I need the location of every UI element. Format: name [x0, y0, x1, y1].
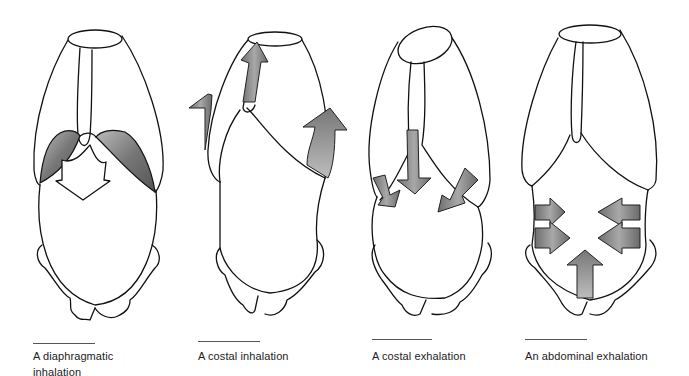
thoracic-opening	[393, 19, 457, 70]
inner-rib	[219, 108, 325, 182]
sternum	[571, 42, 583, 143]
caption-diaphragmatic-inhalation: A diaphragmatic inhalation	[33, 348, 153, 376]
left-arrow-icon	[598, 198, 640, 226]
costal-inhalation-drawing	[175, 0, 350, 330]
up-arrow-icon	[303, 108, 347, 178]
diaphragmatic-inhalation-drawing	[0, 0, 175, 330]
caption-rule	[525, 339, 587, 340]
lower-ribs	[532, 133, 648, 190]
panel-costal-inhalation: A costal inhalation	[175, 0, 350, 376]
pelvis-left	[37, 245, 95, 320]
abdomen-outline	[372, 197, 482, 298]
down-left-arrow-icon	[438, 168, 478, 212]
costal-exhalation-drawing	[350, 0, 515, 330]
left-arrow-icon	[598, 222, 640, 254]
breathing-diagram-figure: A diaphragmatic inhalation A costal inha…	[0, 0, 689, 376]
right-arrow-icon	[535, 222, 570, 254]
down-arrow-icon	[397, 130, 431, 194]
caption-costal-exhalation: A costal exhalation	[372, 348, 512, 364]
up-arrow-icon	[567, 250, 603, 298]
down-left-arrow-icon	[373, 175, 400, 207]
panel-costal-exhalation: A costal exhalation	[350, 0, 515, 376]
up-arrow-icon	[241, 42, 268, 102]
caption-costal-inhalation: A costal inhalation	[198, 348, 338, 364]
panel-diaphragmatic-inhalation: A diaphragmatic inhalation	[0, 0, 175, 376]
abdomen-outline	[220, 178, 325, 293]
abdominal-exhalation-drawing	[510, 0, 689, 330]
caption-rule	[33, 343, 95, 344]
abdomen-outline	[39, 185, 157, 305]
caption-rule	[198, 341, 260, 342]
thoracic-opening	[559, 25, 621, 43]
thoracic-opening	[68, 30, 122, 48]
sternum	[77, 48, 92, 146]
caption-rule	[372, 339, 432, 340]
panel-abdominal-exhalation: An abdominal exhalation	[510, 0, 689, 376]
rib-cage-outline	[522, 30, 657, 190]
pelvis	[372, 243, 491, 315]
caption-abdominal-exhalation: An abdominal exhalation	[525, 348, 685, 364]
diaphragm-dome	[80, 133, 96, 137]
